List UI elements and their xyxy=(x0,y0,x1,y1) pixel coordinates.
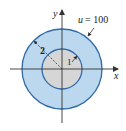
inner-radius-label: 1 xyxy=(67,57,72,67)
boundary-eq: = 100 xyxy=(85,14,108,25)
annulus-diagram: y x u= 100 2 1 xyxy=(0,0,126,131)
boundary-var: u xyxy=(78,14,83,25)
boundary-label: u= 100 xyxy=(78,14,108,25)
outer-radius-label: 2 xyxy=(40,45,45,56)
boundary-arrow xyxy=(88,28,94,36)
y-axis-label: y xyxy=(52,8,58,19)
x-axis-label: x xyxy=(113,70,119,81)
